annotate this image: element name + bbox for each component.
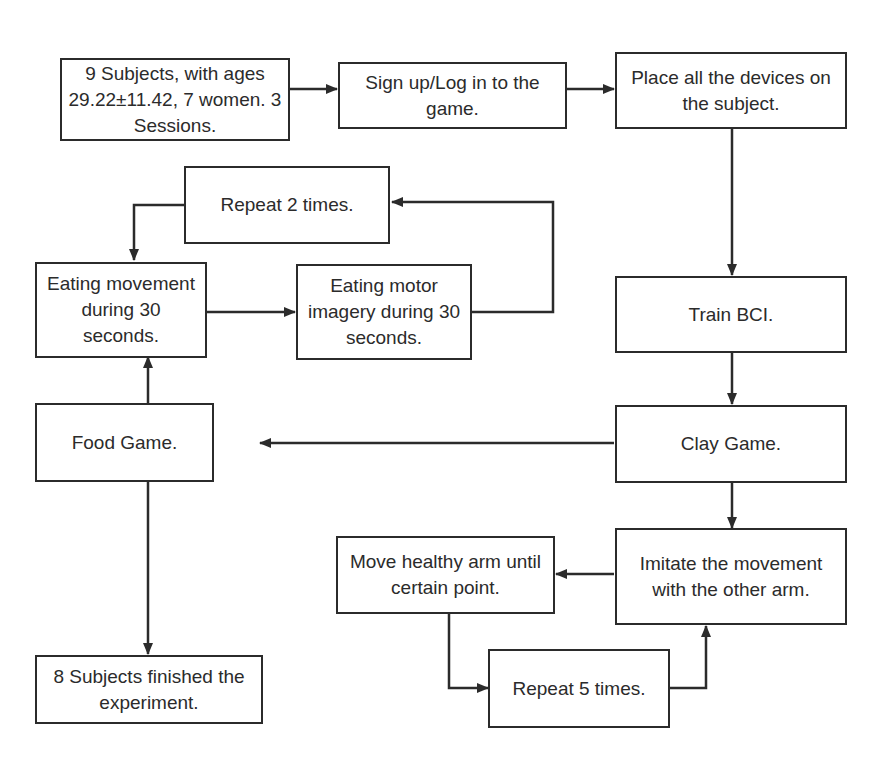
node-food-game: Food Game. xyxy=(35,403,214,482)
node-repeat2: Repeat 2 times. xyxy=(184,166,390,244)
node-eating-movement: Eating movement during 30 seconds. xyxy=(35,262,207,358)
node-train-bci: Train BCI. xyxy=(615,276,847,353)
arrow-repeat5-imitate xyxy=(669,626,706,688)
node-eating-imagery: Eating motor imagery during 30 seconds. xyxy=(296,264,472,360)
node-clay-game: Clay Game. xyxy=(615,405,847,483)
arrow-move-repeat5 xyxy=(449,613,488,688)
node-finished: 8 Subjects finished the experiment. xyxy=(35,655,263,724)
node-devices: Place all the devices on the subject. xyxy=(615,52,847,129)
node-move-arm: Move healthy arm until certain point. xyxy=(336,536,555,614)
node-subjects: 9 Subjects, with ages 29.22±11.42, 7 wom… xyxy=(60,58,290,141)
node-imitate: Imitate the movement with the other arm. xyxy=(615,528,847,625)
node-signup: Sign up/Log in to the game. xyxy=(338,62,567,129)
node-repeat5: Repeat 5 times. xyxy=(488,649,670,728)
